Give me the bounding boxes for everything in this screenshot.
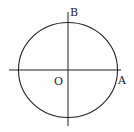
label-b: B (70, 7, 78, 18)
label-origin: O (54, 76, 63, 87)
circle-axes-diagram: B O A (0, 0, 134, 132)
label-a: A (118, 75, 126, 86)
diagram-canvas (0, 0, 134, 132)
